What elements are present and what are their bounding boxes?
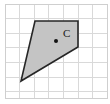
- center-point-label: C: [63, 27, 70, 39]
- figure-canvas: C: [0, 0, 110, 104]
- geometry-figure: C: [0, 0, 110, 104]
- center-point-dot: [54, 39, 58, 43]
